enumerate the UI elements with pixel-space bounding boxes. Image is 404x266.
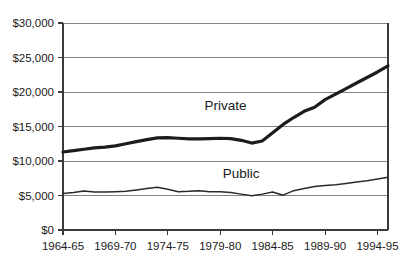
- y-tick-label: $15,000: [12, 121, 54, 133]
- y-tick-label: $30,000: [12, 17, 54, 29]
- y-axis-tick-labels: $0$5,000$10,000$15,000$20,000$25,000$30,…: [12, 17, 54, 236]
- x-tick-label: 1979-80: [199, 240, 241, 252]
- line-chart: $0$5,000$10,000$15,000$20,000$25,000$30,…: [0, 0, 404, 266]
- x-tick-label: 1989-90: [304, 240, 346, 252]
- x-tick-label: 1984-85: [252, 240, 294, 252]
- y-tick-label: $20,000: [12, 86, 54, 98]
- x-tick-label: 1969-70: [94, 240, 136, 252]
- y-tick-label: $5,000: [19, 190, 54, 202]
- x-tick-label: 1994-95: [356, 240, 398, 252]
- y-tick-label: $0: [41, 224, 54, 236]
- x-tick-label: 1964-65: [42, 240, 84, 252]
- x-axis-tick-labels: 1964-651969-701974-751979-801984-851989-…: [42, 240, 399, 252]
- chart-container: $0$5,000$10,000$15,000$20,000$25,000$30,…: [0, 0, 404, 266]
- y-tick-label: $25,000: [12, 52, 54, 64]
- series-annotation-public: Public: [223, 166, 260, 181]
- y-tick-label: $10,000: [12, 155, 54, 167]
- series-annotation-private: Private: [204, 98, 246, 113]
- x-tick-marks: [63, 230, 378, 235]
- x-tick-label: 1974-75: [147, 240, 189, 252]
- y-tick-marks: [58, 23, 63, 230]
